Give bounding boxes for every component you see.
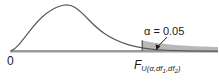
subscript-suffix: ) [178,64,181,73]
density-curve [12,5,219,51]
alpha-area-label: α = 0.05 [144,26,184,37]
subscript-middle: ,df [166,64,175,73]
f-distribution-figure: 0 α = 0.05 FU(α,df1,df2) [0,0,218,81]
critical-value-subscript: U(α,df1,df2) [141,64,180,73]
subscript-prefix: U(α,df [141,64,162,73]
figure-canvas [0,0,218,81]
critical-value-label: FU(α,df1,df2) [134,59,181,74]
axis-origin-label: 0 [7,55,14,67]
